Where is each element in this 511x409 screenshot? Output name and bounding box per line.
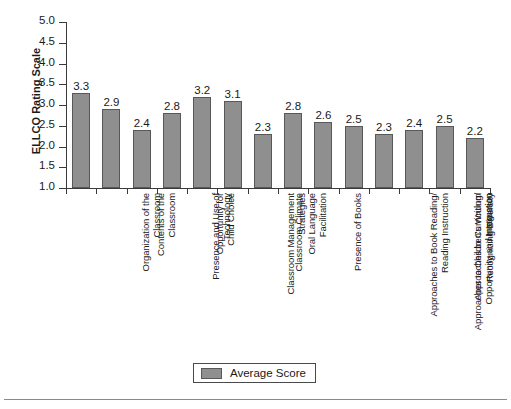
y-tick: 1.5 (59, 167, 66, 168)
bar-value-label: 2.6 (315, 109, 331, 121)
y-tick-label: 4.0 (39, 56, 55, 68)
bar: 2.8 (284, 113, 302, 188)
bar: 2.4 (405, 130, 423, 188)
bar: 2.5 (436, 126, 454, 188)
y-tick: 4.0 (59, 64, 66, 65)
bar: 3.2 (193, 97, 211, 188)
figure-bottom-rule (4, 399, 507, 400)
x-category-label-line: Classroom (167, 193, 178, 256)
x-category-label: Oral LanguageFacilitation (306, 193, 327, 255)
y-tick: 4.5 (59, 43, 66, 44)
plot-area: 5.04.54.03.53.02.52.01.51.0 3.32.92.42.8… (66, 22, 490, 188)
y-tick-label: 2.5 (39, 118, 55, 130)
x-tick (187, 189, 188, 194)
bar: 2.4 (133, 130, 151, 188)
bar-value-label: 2.5 (346, 113, 362, 125)
x-category-label: Opportunity forChild Choice (215, 193, 236, 254)
bar: 2.5 (345, 126, 363, 188)
y-tick: 2.0 (59, 147, 66, 148)
y-tick-label: 1.0 (39, 180, 55, 192)
y-tick: 1.0 (59, 188, 66, 189)
bar-value-label: 2.3 (376, 121, 392, 133)
bar-value-label: 2.4 (134, 117, 150, 129)
x-tick (278, 189, 279, 194)
y-tick: 3.5 (59, 84, 66, 85)
bar-value-label: 2.8 (164, 100, 180, 112)
x-tick (460, 189, 461, 194)
bar-value-label: 3.2 (194, 84, 210, 96)
x-category-label-line: Recognizing Diversity (486, 193, 497, 282)
bar: 2.3 (254, 134, 272, 188)
bar-value-label: 3.3 (73, 80, 89, 92)
y-axis-line (66, 22, 67, 189)
y-tick-label: 1.5 (39, 159, 55, 171)
bar-value-label: 2.5 (437, 113, 453, 125)
x-tick (127, 189, 128, 194)
x-category-label-line: Presence of Books (353, 193, 364, 271)
x-category-label: Contents of theClassroom (156, 193, 177, 256)
x-tick (399, 189, 400, 194)
bar: 3.1 (224, 101, 242, 188)
x-category-label: Classroom Climate (293, 193, 304, 272)
bar: 2.8 (163, 113, 181, 188)
x-category-label-line: Reading Instruction (439, 193, 450, 317)
y-tick-label: 3.5 (39, 76, 55, 88)
x-category-label-line: Facilitation (317, 193, 328, 255)
x-category-label-line: Child Choice (226, 193, 237, 254)
bar: 2.6 (314, 122, 332, 188)
y-tick-label: 3.0 (39, 97, 55, 109)
bar: 2.3 (375, 134, 393, 188)
chart-figure: ELLCO Rating Scale 5.04.54.03.53.02.52.0… (0, 0, 511, 409)
x-tick (248, 189, 249, 194)
bar: 2.9 (102, 109, 120, 188)
bar-value-label: 2.3 (255, 121, 271, 133)
x-category-label-line: Classroom Climate (293, 193, 304, 272)
bar-value-label: 3.1 (225, 88, 241, 100)
legend-swatch-average-score (201, 368, 222, 379)
y-tick-label: 4.5 (39, 35, 55, 47)
x-category-label: Approaches to Book Reading/Reading Instr… (429, 193, 450, 317)
x-tick (369, 189, 370, 194)
legend: Average Score (193, 363, 316, 383)
y-tick-label: 2.0 (39, 139, 55, 151)
x-tick (339, 189, 340, 194)
x-category-label: Recognizing Diversity (486, 193, 497, 282)
y-tick: 3.0 (59, 105, 66, 106)
y-tick-label: 5.0 (39, 14, 55, 26)
x-category-label-line: Approaches to Curriculum (473, 193, 484, 300)
bar-value-label: 2.8 (285, 100, 301, 112)
bar: 2.2 (466, 138, 484, 188)
legend-label-average-score: Average Score (230, 367, 306, 379)
y-tick: 5.0 (59, 22, 66, 23)
bar-value-label: 2.2 (467, 125, 483, 137)
x-category-label: Presence of Books (353, 193, 364, 271)
bar-value-label: 2.4 (406, 117, 422, 129)
x-category-label-line: Oral Language (306, 193, 317, 255)
bar-value-label: 2.9 (103, 96, 119, 108)
x-tick (96, 189, 97, 194)
bar: 3.3 (72, 93, 90, 188)
x-category-label-line: Opportunity for (215, 193, 226, 254)
y-tick: 2.5 (59, 126, 66, 127)
x-tick (66, 189, 67, 194)
